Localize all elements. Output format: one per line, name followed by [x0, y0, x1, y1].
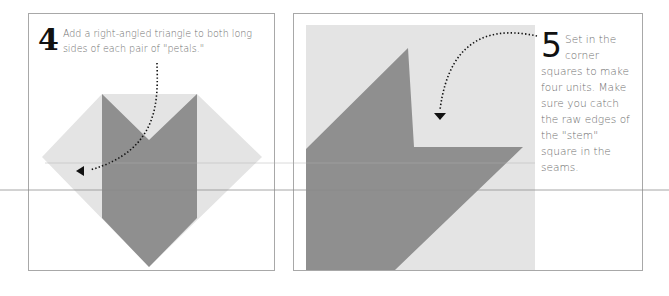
step-instruction: Add a right-angled triangle to both long…	[63, 28, 252, 54]
step-number: 4	[38, 27, 59, 53]
step-5-block-diagram	[306, 25, 535, 270]
step-number: 5	[541, 32, 562, 59]
step-4-block-diagram	[42, 94, 262, 267]
step-4-caption: 4 Add a right-angled triangle to both lo…	[38, 26, 274, 56]
step-5-caption: 5 Set in the corner squares to make four…	[541, 31, 637, 175]
